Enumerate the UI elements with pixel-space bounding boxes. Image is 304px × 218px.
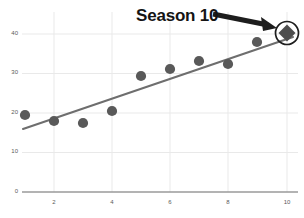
data-point-8 [223,59,233,69]
highlighted-point-season-10 [276,22,299,45]
data-point-2 [49,116,59,126]
data-point-3 [78,118,88,128]
x-tick-label-8: 8 [218,199,238,205]
y-tick-label-30: 30 [2,69,18,75]
data-point-6 [165,64,175,74]
y-tick-label-0: 0 [2,188,18,194]
callout-arrow [213,14,277,31]
data-point-9 [252,37,262,47]
x-tick-label-4: 4 [102,199,122,205]
chart-container: Season 10 40 30 20 10 0 2 4 6 8 10 [0,0,304,218]
data-point-4 [107,106,117,116]
diamond-marker [279,25,296,42]
trend-line [23,37,293,129]
x-tick-label-6: 6 [160,199,180,205]
y-tick-label-20: 20 [2,109,18,115]
data-points [20,37,262,128]
x-tick-label-10: 10 [277,199,297,205]
y-tick-label-10: 10 [2,148,18,154]
scatter-chart [0,0,304,218]
data-point-7 [194,56,204,66]
data-point-5 [136,71,146,81]
season-10-annotation: Season 10 [136,6,218,25]
data-point-1 [20,110,30,120]
x-tick-label-2: 2 [44,199,64,205]
y-tick-label-40: 40 [2,30,18,36]
